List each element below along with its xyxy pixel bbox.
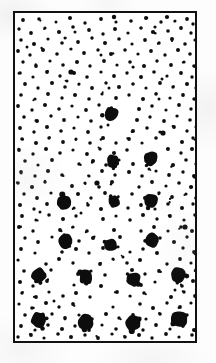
series-fine-dots bbox=[16, 15, 195, 340]
plot-canvas bbox=[15, 13, 195, 341]
dot-scatter-layer bbox=[15, 13, 195, 341]
plot-frame-border bbox=[13, 11, 197, 343]
figure-root bbox=[0, 0, 216, 363]
